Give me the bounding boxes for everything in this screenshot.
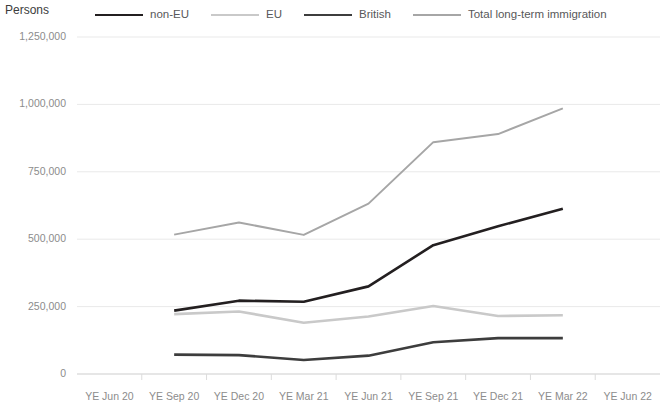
y-axis-tick-label: 1,000,000 bbox=[0, 98, 66, 109]
plot-area: 1,250,0001,000,000750,000500,000250,0000… bbox=[0, 0, 670, 409]
line-chart: Persons non-EUEUBritishTotal long-term i… bbox=[0, 0, 670, 409]
x-axis-tick-label: YE Jun 22 bbox=[583, 391, 670, 402]
series-line-british bbox=[174, 338, 563, 360]
y-axis-tick-label: 500,000 bbox=[0, 233, 66, 244]
y-axis-tick-label: 750,000 bbox=[0, 166, 66, 177]
y-axis-tick-label: 0 bbox=[0, 368, 66, 379]
series-line-eu bbox=[174, 306, 563, 323]
y-axis-tick-label: 250,000 bbox=[0, 301, 66, 312]
plot-svg bbox=[0, 0, 670, 409]
y-axis-tick-label: 1,250,000 bbox=[0, 31, 66, 42]
